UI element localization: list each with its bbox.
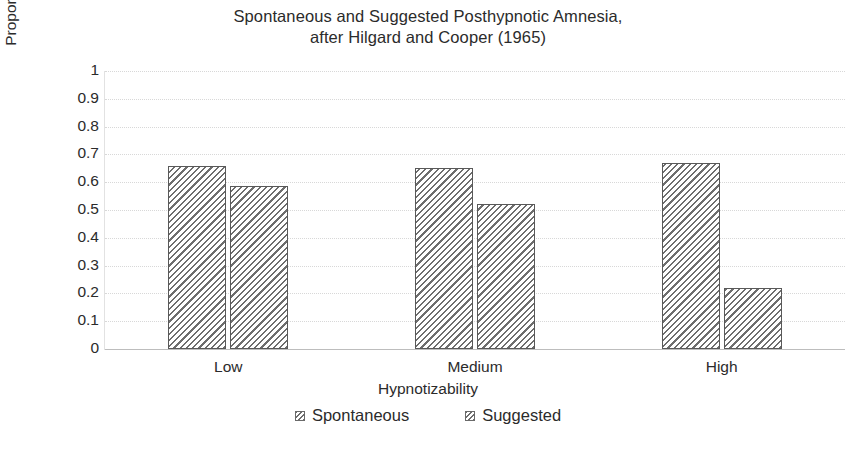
bar-medium-suggested (477, 204, 535, 349)
y-axis-tick-labels: 10.90.80.70.60.50.40.30.20.10 (33, 71, 99, 349)
gridline (105, 154, 845, 156)
legend-item-spontaneous[interactable]: Spontaneous (295, 406, 409, 425)
chart-title-line-1: Spontaneous and Suggested Posthypnotic A… (0, 6, 856, 27)
y-tick-label: 0.1 (37, 311, 99, 329)
gridline (105, 99, 845, 101)
x-tick-label-low: Low (214, 358, 242, 376)
gridline (105, 71, 845, 73)
chart-legend: SpontaneousSuggested (0, 406, 856, 425)
bar-high-spontaneous (662, 163, 720, 349)
gridline (105, 127, 845, 129)
y-tick-label: 1 (37, 61, 99, 79)
x-tick-label-high: High (706, 358, 738, 376)
chart-title: Spontaneous and Suggested Posthypnotic A… (0, 6, 856, 48)
x-tick-label-medium: Medium (447, 358, 502, 376)
y-tick-label: 0.8 (37, 117, 99, 135)
y-tick-label: 0.9 (37, 89, 99, 107)
chart-figure: Spontaneous and Suggested Posthypnotic A… (0, 0, 856, 452)
legend-label: Suggested (482, 406, 561, 425)
y-tick-label: 0 (37, 339, 99, 357)
legend-swatch-icon (465, 411, 475, 421)
y-tick-label: 0.5 (37, 200, 99, 218)
gridline (105, 349, 845, 351)
legend-swatch-icon (295, 411, 305, 421)
chart-title-line-2: after Hilgard and Cooper (1965) (0, 27, 856, 48)
y-tick-label: 0.4 (37, 228, 99, 246)
y-axis-label: Proportion of Items Recalled (2, 0, 24, 93)
bar-high-suggested (724, 288, 782, 349)
x-axis-label: Hypnotizability (0, 380, 856, 398)
bar-low-suggested (230, 186, 288, 349)
plot-area (105, 71, 845, 349)
y-tick-label: 0.2 (37, 283, 99, 301)
bar-medium-spontaneous (415, 168, 473, 349)
y-tick-label: 0.6 (37, 172, 99, 190)
y-tick-label: 0.3 (37, 256, 99, 274)
legend-label: Spontaneous (312, 406, 409, 425)
y-tick-label: 0.7 (37, 144, 99, 162)
legend-item-suggested[interactable]: Suggested (465, 406, 561, 425)
bar-low-spontaneous (168, 166, 226, 349)
